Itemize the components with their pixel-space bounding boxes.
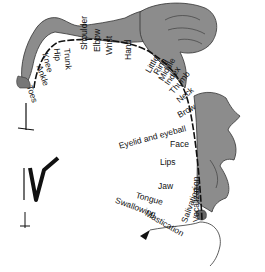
label-wrist: Wrist — [105, 36, 114, 55]
label-hip: Hip — [53, 48, 63, 61]
label-lips: Lips — [160, 158, 176, 167]
label-face: Face — [170, 140, 189, 149]
label-jaw: Jaw — [158, 182, 173, 191]
label-elbow: Elbow — [93, 29, 102, 52]
genitals-symbol — [18, 103, 34, 130]
knee-symbol — [30, 158, 58, 200]
small-symbol — [20, 212, 30, 228]
motor-homunculus-diagram: ToesAnkleKneeHipTrunkShoulderElbowWristH… — [0, 0, 265, 272]
label-trunk: Trunk — [63, 48, 73, 70]
label-shoulder: Shoulder — [80, 16, 89, 50]
label-hand: Hand — [124, 40, 133, 60]
label-vocalization: Vocalization — [192, 177, 201, 222]
